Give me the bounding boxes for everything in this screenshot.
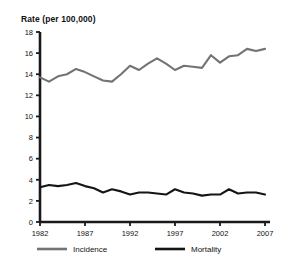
- y-tick-label: 8: [29, 133, 33, 142]
- line-chart-plot: 024681012141618 198219871992199720022007…: [0, 0, 289, 263]
- x-tick-label: 1997: [167, 229, 184, 238]
- y-tick-label: 10: [25, 112, 33, 121]
- y-tick-label: 14: [25, 70, 33, 79]
- y-tick-label: 16: [25, 49, 33, 58]
- y-tick-label: 6: [29, 154, 33, 163]
- x-tick-label: 2002: [212, 229, 229, 238]
- y-tick-label: 2: [29, 197, 33, 206]
- x-axis-tick-labels: 198219871992199720022007: [32, 229, 274, 238]
- y-tick-label: 0: [29, 218, 33, 227]
- legend-label-incidence: Incidence: [73, 245, 108, 254]
- series-line-mortality: [40, 183, 265, 196]
- chart-legend: IncidenceMortality: [37, 245, 221, 254]
- series-line-incidence: [40, 49, 265, 82]
- legend-label-mortality: Mortality: [191, 245, 221, 254]
- y-tick-label: 18: [25, 28, 33, 37]
- y-axis-tick-labels: 024681012141618: [25, 28, 33, 227]
- chart-figure: Rate (per 100,000) 024681012141618 19821…: [0, 0, 289, 263]
- x-tick-label: 2007: [257, 229, 274, 238]
- y-tick-label: 4: [29, 176, 33, 185]
- data-series-group: [40, 49, 265, 196]
- x-tick-label: 1982: [32, 229, 49, 238]
- x-tick-label: 1992: [122, 229, 139, 238]
- y-tick-label: 12: [25, 91, 33, 100]
- x-tick-label: 1987: [77, 229, 94, 238]
